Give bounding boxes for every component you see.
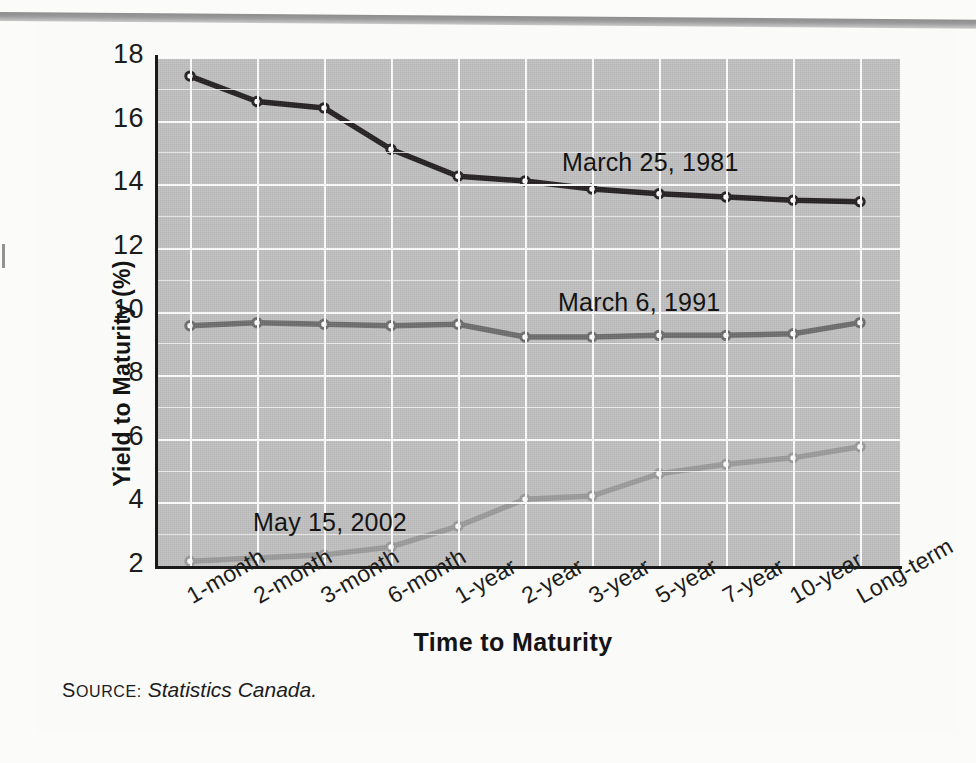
gridline-horizontal bbox=[157, 439, 900, 441]
gridline-vertical bbox=[793, 57, 795, 566]
left-margin-mark bbox=[2, 244, 5, 268]
gridline-horizontal bbox=[157, 57, 900, 59]
figure-root: Yield to Maturity (%) 24681012141618 Mar… bbox=[0, 0, 976, 763]
y-tick-label: 18 bbox=[98, 39, 144, 70]
gridline-vertical bbox=[458, 57, 460, 566]
gridline-horizontal bbox=[157, 280, 900, 281]
gridline-horizontal bbox=[157, 121, 900, 123]
gridline-horizontal bbox=[157, 89, 900, 90]
y-tick-label: 12 bbox=[98, 230, 144, 261]
y-tick-label: 2 bbox=[98, 548, 144, 579]
y-tick-label: 16 bbox=[98, 103, 144, 134]
y-axis-title-wrap: Yield to Maturity (%) bbox=[22, 60, 66, 580]
y-tick-label: 8 bbox=[98, 357, 144, 388]
gridline-vertical bbox=[391, 57, 393, 566]
gridline-horizontal bbox=[157, 343, 900, 344]
gridline-vertical bbox=[324, 57, 326, 566]
gridline-horizontal bbox=[157, 216, 900, 217]
series-annotation-label: March 25, 1981 bbox=[562, 148, 739, 177]
source-label-rest: OURCE: bbox=[76, 683, 142, 700]
gridline-horizontal bbox=[157, 184, 900, 186]
gridline-horizontal bbox=[157, 248, 900, 250]
y-tick-label: 6 bbox=[98, 421, 144, 452]
x-axis-title: Time to Maturity bbox=[413, 628, 612, 657]
gridline-vertical bbox=[860, 57, 862, 566]
series-annotation-label: March 6, 1991 bbox=[558, 288, 720, 317]
gridline-horizontal bbox=[157, 471, 900, 472]
source-label-cap: S bbox=[62, 679, 76, 701]
y-tick-label: 4 bbox=[98, 484, 144, 515]
y-tick-label: 14 bbox=[98, 166, 144, 197]
gridline-vertical bbox=[525, 57, 527, 566]
gridline-vertical bbox=[190, 57, 192, 566]
gridline-horizontal bbox=[157, 375, 900, 377]
source-label: SOURCE: bbox=[62, 683, 142, 700]
gridline-horizontal bbox=[157, 152, 900, 153]
y-axis-line bbox=[155, 55, 158, 569]
source-value: Statistics Canada. bbox=[148, 678, 317, 701]
gridline-horizontal bbox=[157, 502, 900, 504]
x-axis-title-wrap: Time to Maturity bbox=[0, 628, 976, 657]
gridline-vertical bbox=[257, 57, 259, 566]
gridline-vertical bbox=[726, 57, 728, 566]
plot-area bbox=[157, 57, 900, 566]
gridline-horizontal bbox=[157, 312, 900, 314]
y-tick-label: 10 bbox=[98, 294, 144, 325]
series-annotation-label: May 15, 2002 bbox=[253, 508, 407, 537]
source-note: SOURCE:Statistics Canada. bbox=[62, 678, 317, 702]
gridline-horizontal bbox=[157, 407, 900, 408]
